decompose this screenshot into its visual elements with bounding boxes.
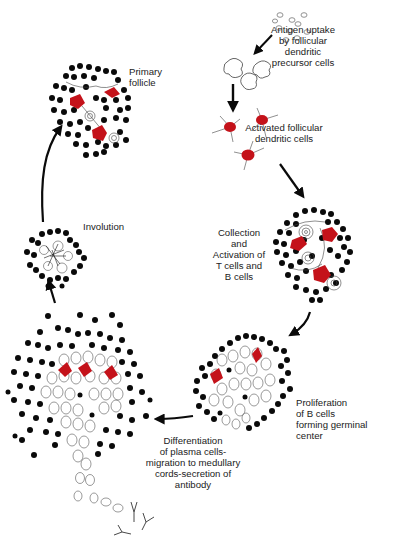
arrow-proliferation-to-differentiation [158,416,193,419]
label-primary-follicle: Primary follicle [129,66,162,88]
involution-follicle [24,228,87,289]
collection-follicle [273,207,353,303]
arrow-activated-to-collection [280,164,302,195]
germinal-center-follicle [193,333,293,431]
arrow-involution-to-primary [42,128,60,222]
label-activated-fdc: Activated follicular dendritic cells [229,122,339,144]
label-antigen-uptake: Antigen uptake by follicular dendritic p… [255,24,351,68]
primary-follicle [49,63,131,158]
plasma-cell-follicle [6,312,155,535]
label-differentiation: Differentiation of plasma cells- migrati… [123,435,263,490]
label-proliferation: Proliferation of B cells forming germina… [296,397,367,441]
antibody-icons [114,502,154,535]
follicle-cycle-diagram: Primary follicle Antigen uptake by folli… [0,0,395,553]
arrow-collection-to-proliferation [292,312,310,334]
label-collection-activation: Collection and Activation of T cells and… [199,227,279,282]
label-involution: Involution [83,221,124,232]
